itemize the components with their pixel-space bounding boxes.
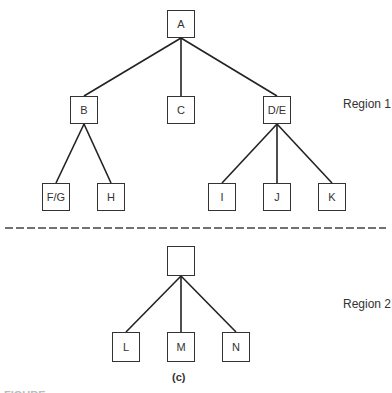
node-l: L (112, 332, 140, 362)
node-k: K (318, 183, 346, 211)
figure-caption-cropped: FIGURE (4, 388, 46, 393)
node-de: D/E (263, 96, 291, 124)
node-j: J (263, 183, 291, 211)
node-b: B (70, 96, 98, 124)
node-fg: F/G (42, 183, 70, 211)
subfigure-label: (c) (172, 371, 185, 383)
node-n: N (222, 332, 250, 362)
region-2-label: Region 2 (343, 297, 391, 311)
node-region2-root (167, 246, 195, 276)
node-c: C (167, 96, 195, 124)
node-h: H (97, 183, 125, 211)
node-i: I (208, 183, 236, 211)
node-m: M (167, 332, 195, 362)
region-1-label: Region 1 (343, 97, 391, 111)
node-a: A (167, 10, 195, 38)
